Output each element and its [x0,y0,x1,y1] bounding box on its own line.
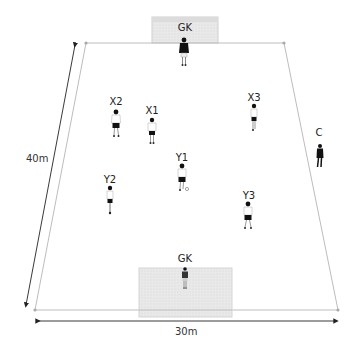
player-x2-label: X2 [109,97,122,107]
width-dimension-label: 30m [175,327,197,337]
player-x3-label: X3 [247,93,260,103]
coach-figure [317,144,324,167]
player-x1-label: X1 [145,106,158,116]
player-x3-figure [251,104,257,131]
player-y2-figure [107,186,113,214]
player-y3-figure [244,202,252,229]
length-dimension-arrow [26,45,75,305]
player-y1-figure [178,164,186,191]
length-dimension-label: 40m [26,154,48,164]
top-goal-label: GK [178,23,192,33]
player-x1-figure [148,118,156,144]
bottom-goal-label: GK [178,254,192,264]
player-y1-label: Y1 [176,153,188,163]
player-x2-figure [112,110,121,137]
player-y3-label: Y3 [243,191,255,201]
player-y2-label: Y2 [104,175,116,185]
coach-label: C [316,128,323,138]
ball [185,187,188,190]
pitch-diagram [0,0,358,348]
